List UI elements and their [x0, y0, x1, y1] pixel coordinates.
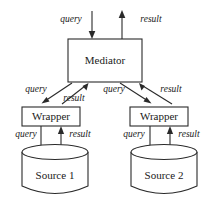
edge-source-left-to-wrapper-result-arrowhead — [58, 126, 64, 134]
edge-label-wrapper-right-to-mediator-result: result — [160, 84, 182, 94]
edge-top-query-arrowhead — [89, 31, 96, 39]
edge-top-result — [119, 10, 126, 39]
node-wrapper-left-label: Wrapper — [32, 110, 70, 122]
edge-label-mediator-to-wrapper-right-query: query — [103, 84, 125, 94]
node-source-left-top — [22, 145, 88, 160]
mediator-wrapper-diagram: query result Mediator query result quer — [0, 0, 210, 203]
edge-label-source-left-to-wrapper-result: result — [69, 129, 91, 139]
node-mediator-label: Mediator — [85, 54, 126, 66]
edge-wrapper-right-to-mediator-result-arrowhead — [139, 83, 145, 91]
edge-label-wrapper-left-to-source-query: query — [15, 129, 37, 139]
edge-label-top-result: result — [140, 14, 162, 24]
node-source-right-top — [131, 145, 197, 160]
edge-label-mediator-to-wrapper-left-query: query — [25, 84, 47, 94]
edge-label-wrapper-left-to-mediator-result: result — [63, 93, 85, 103]
edge-top-result-arrowhead — [119, 10, 126, 18]
diagram-canvas: query result Mediator query result quer — [0, 0, 210, 203]
edge-mediator-to-wrapper-left-query-arrowhead — [42, 97, 50, 104]
edge-wrapper-left-to-mediator-result-arrowhead — [83, 83, 89, 91]
node-source-left-label: Source 1 — [36, 169, 75, 181]
edge-label-wrapper-right-to-source-query: query — [123, 129, 145, 139]
edge-source-right-to-wrapper-result-arrowhead — [167, 126, 173, 134]
edge-mediator-to-wrapper-right-query-arrowhead — [144, 97, 152, 104]
node-wrapper-right-label: Wrapper — [140, 110, 178, 122]
edge-label-top-query: query — [60, 14, 82, 24]
edge-label-source-right-to-wrapper-result: result — [178, 129, 200, 139]
edge-top-query — [89, 11, 96, 39]
node-source-right-label: Source 2 — [145, 169, 184, 181]
